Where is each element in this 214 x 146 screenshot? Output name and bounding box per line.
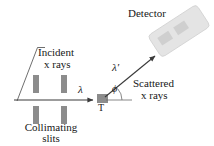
incident-xrays-label: x rays xyxy=(44,59,71,71)
scattering-angle-arc xyxy=(118,89,123,101)
scattered-wavelength-symbol: λ′ xyxy=(112,62,119,74)
slit-bar xyxy=(33,75,39,93)
slits-label: slits xyxy=(16,133,86,145)
scattered-label: Scattered xyxy=(133,78,174,90)
incident-wavelength-symbol: λ xyxy=(78,84,83,96)
target-label: T xyxy=(98,103,104,114)
detector-label: Detector xyxy=(128,8,166,20)
compton-scattering-diagram: Detector Incident x rays Scattered x ray… xyxy=(0,0,214,146)
slit-bar xyxy=(61,75,67,93)
scattering-angle-symbol: ϕ xyxy=(112,84,117,95)
incident-label: Incident xyxy=(38,47,74,59)
scattered-xrays-label: x rays xyxy=(141,90,168,102)
